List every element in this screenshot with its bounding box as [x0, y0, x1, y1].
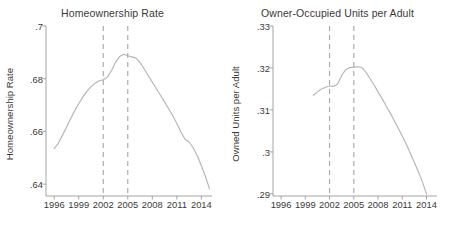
- x-tick-label: 1996: [271, 199, 292, 210]
- y-tick-label: .64: [30, 179, 43, 190]
- line-plot-right: [273, 26, 437, 196]
- x-tick-label: 2014: [416, 199, 437, 210]
- y-tick-label: .68: [30, 73, 43, 84]
- y-tick-label: .66: [30, 126, 43, 137]
- y-tick-label: .32: [257, 62, 270, 73]
- x-tick-label: 2014: [191, 199, 212, 210]
- y-tick-label: .33: [257, 21, 270, 32]
- y-tick-label: .7: [35, 21, 43, 32]
- x-tick-label: 2002: [319, 199, 340, 210]
- figure-container: Homeownership Rate Homeownership Rate .6…: [0, 0, 450, 228]
- x-tick-label: 1999: [295, 199, 316, 210]
- chart-panel-owner-occupied-units: Owner-Occupied Units per Adult Owned Uni…: [225, 0, 450, 228]
- x-axis-ticks-right: 1996199920022005200820112014: [273, 199, 437, 215]
- panel-title-left: Homeownership Rate: [0, 7, 225, 19]
- y-tick-label: .3: [262, 146, 270, 157]
- series-line: [54, 54, 209, 189]
- x-tick-label: 2005: [117, 199, 138, 210]
- x-tick-label: 2008: [142, 199, 163, 210]
- y-axis-ticks-left: .64.66.68.7: [0, 26, 43, 196]
- chart-panel-homeownership-rate: Homeownership Rate Homeownership Rate .6…: [0, 0, 225, 228]
- y-tick-label: .31: [257, 104, 270, 115]
- x-tick-label: 2002: [93, 199, 114, 210]
- x-tick-label: 1999: [68, 199, 89, 210]
- x-tick-label: 1996: [44, 199, 65, 210]
- x-tick-label: 2011: [167, 199, 187, 210]
- plot-area-right: [273, 26, 437, 196]
- line-plot-left: [46, 26, 212, 196]
- series-line: [313, 67, 426, 194]
- y-axis-ticks-right: .29.3.31.32.33: [225, 26, 270, 196]
- x-axis-ticks-left: 1996199920022005200820112014: [46, 199, 212, 215]
- x-tick-label: 2011: [392, 199, 412, 210]
- x-tick-label: 2005: [343, 199, 364, 210]
- y-tick-label: .29: [257, 188, 270, 199]
- x-tick-label: 2008: [368, 199, 389, 210]
- plot-area-left: [46, 26, 212, 196]
- panel-title-right: Owner-Occupied Units per Adult: [225, 7, 450, 19]
